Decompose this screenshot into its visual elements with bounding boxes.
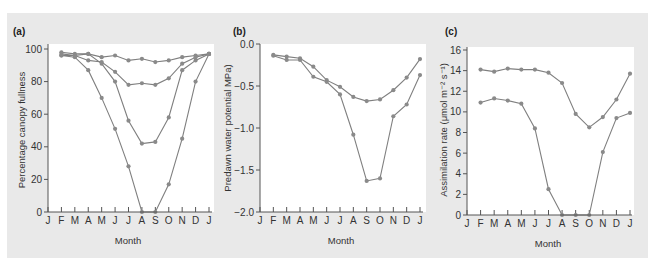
x-tick-label: A — [85, 215, 92, 226]
data-point — [140, 57, 144, 61]
data-point — [100, 96, 104, 100]
x-tick-label: A — [350, 215, 357, 226]
x-tick-label: F — [58, 215, 64, 226]
data-point — [140, 81, 144, 85]
data-point — [113, 53, 117, 57]
y-axis-title-c: Assimilation rate (μmol m⁻² s⁻¹) — [438, 63, 449, 197]
y-tick-label: 2 — [455, 189, 461, 200]
panel-label-c: (c) — [445, 26, 457, 37]
data-point — [86, 52, 90, 56]
data-point — [391, 88, 395, 92]
panel-c: (c) 0246810121416 JFMAMJJASONDJ Month As… — [438, 26, 634, 249]
data-point — [126, 119, 130, 123]
x-tick-label: J — [338, 215, 343, 226]
data-point — [180, 62, 184, 66]
data-point — [378, 176, 382, 180]
x-tick-label: D — [403, 215, 410, 226]
x-tick-label: F — [270, 215, 276, 226]
data-point — [180, 55, 184, 59]
data-point — [519, 102, 523, 106]
data-point — [614, 116, 618, 120]
y-tick-label: 12 — [450, 86, 462, 97]
data-point — [378, 97, 382, 101]
y-tick-label: 80 — [31, 76, 43, 87]
data-point — [180, 137, 184, 141]
data-point — [153, 60, 157, 64]
data-point — [478, 67, 482, 71]
x-tick-label: S — [152, 215, 159, 226]
data-point — [478, 100, 482, 104]
y-tick-label: 0 — [455, 210, 461, 221]
data-point — [338, 92, 342, 96]
data-point — [405, 76, 409, 80]
x-tick-label: N — [179, 215, 186, 226]
data-point — [628, 111, 632, 115]
data-point — [601, 115, 605, 119]
data-point — [86, 68, 90, 72]
x-tick-label: J — [628, 218, 633, 229]
data-point — [100, 55, 104, 59]
data-point — [351, 95, 355, 99]
data-point — [574, 112, 578, 116]
data-point — [113, 70, 117, 74]
data-point — [285, 58, 289, 62]
y-tick-label: 8 — [455, 127, 461, 138]
data-point — [311, 65, 315, 69]
data-point — [207, 52, 211, 56]
data-point — [167, 58, 171, 62]
x-tick-label: A — [559, 218, 566, 229]
x-tick-label: A — [504, 218, 511, 229]
data-point — [271, 54, 275, 58]
y-tick-label: −0.5 — [234, 81, 254, 92]
data-point — [311, 75, 315, 79]
data-point — [546, 187, 550, 191]
data-point — [506, 66, 510, 70]
data-point — [338, 85, 342, 89]
data-point — [126, 164, 130, 168]
y-tick-label: −2.0 — [234, 207, 254, 218]
y-tick-label: −1.5 — [234, 165, 254, 176]
x-tick-label: J — [324, 215, 329, 226]
x-tick-label: S — [363, 215, 370, 226]
data-point — [628, 72, 632, 76]
data-point — [167, 76, 171, 80]
x-tick-label: M — [517, 218, 525, 229]
y-tick-label: 6 — [455, 148, 461, 159]
y-tick-label: 14 — [450, 65, 462, 76]
data-point — [100, 62, 104, 66]
data-point — [140, 141, 144, 145]
x-tick-label: O — [376, 215, 384, 226]
x-tick-label: M — [309, 215, 317, 226]
y-tick-label: 100 — [25, 44, 42, 55]
x-tick-label: A — [139, 215, 146, 226]
x-tick-label: M — [97, 215, 105, 226]
data-point — [492, 70, 496, 74]
x-axis-title-a: Month — [115, 235, 141, 246]
y-axis-title-a: Percentage canopy fullness — [16, 71, 27, 188]
panel-b: (b) 0.0−0.5−1.0−1.5−2.0 JFMAMJJASONDJ Mo… — [222, 26, 426, 246]
x-tick-label: J — [465, 218, 470, 229]
data-point — [405, 102, 409, 106]
data-point — [113, 127, 117, 131]
y-tick-label: 20 — [31, 174, 43, 185]
data-point — [546, 71, 550, 75]
y-ticks-a: 020406080100 — [25, 44, 48, 218]
plot-area-b — [260, 44, 426, 212]
x-tick-label: D — [192, 215, 199, 226]
data-point — [298, 58, 302, 62]
x-tick-label: O — [165, 215, 173, 226]
data-point — [391, 114, 395, 118]
y-ticks-b: 0.0−0.5−1.0−1.5−2.0 — [234, 39, 260, 218]
data-point — [587, 125, 591, 129]
x-tick-label: J — [113, 215, 118, 226]
data-point — [519, 67, 523, 71]
data-point — [418, 57, 422, 61]
y-tick-label: 16 — [450, 45, 462, 56]
data-point — [533, 126, 537, 130]
data-point — [492, 96, 496, 100]
x-tick-label: D — [613, 218, 620, 229]
data-point — [167, 182, 171, 186]
y-ticks-c: 0246810121416 — [450, 45, 467, 221]
y-tick-label: −1.0 — [234, 123, 254, 134]
plot-area-a — [48, 44, 214, 212]
